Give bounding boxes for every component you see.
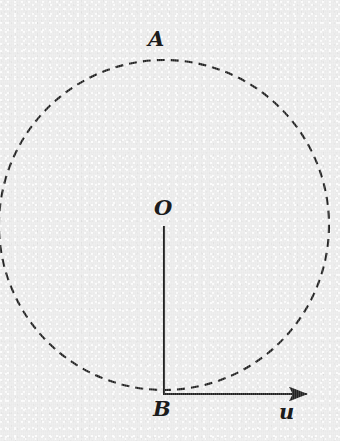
point-label-b: B xyxy=(153,398,171,419)
diagram-canvas xyxy=(0,0,340,441)
point-label-a: A xyxy=(148,28,164,49)
geometry-diagram: A O B u xyxy=(0,0,340,441)
point-label-o: O xyxy=(154,197,172,218)
vector-label-u: u xyxy=(279,401,294,422)
